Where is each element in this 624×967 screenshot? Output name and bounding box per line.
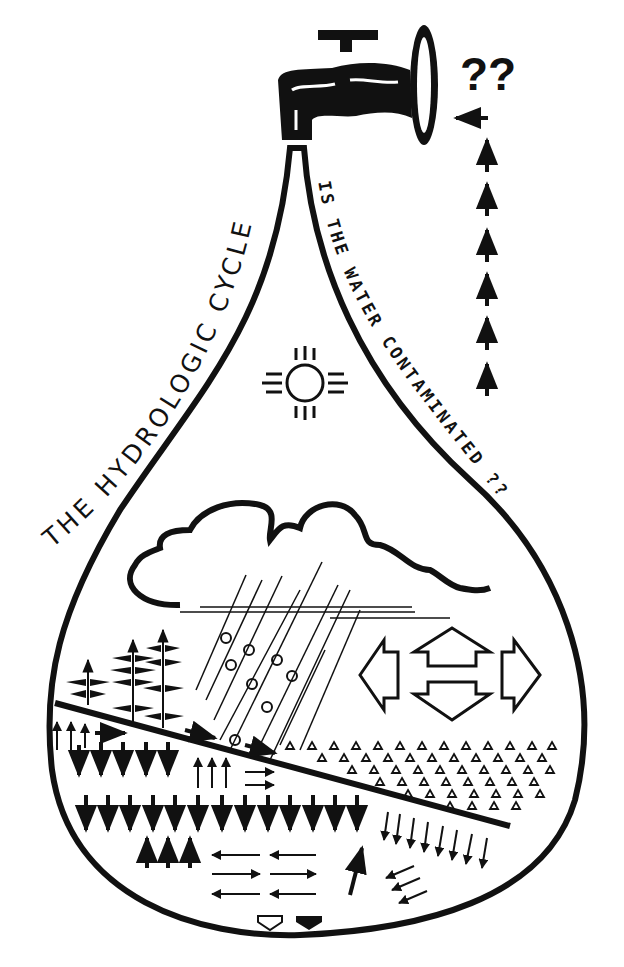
faucet-icon [278,25,438,145]
horizontal-arrow-icon [212,855,316,894]
down-arrow-icon [79,742,362,895]
cloud-icon [130,503,490,605]
question-marks: ?? [460,48,516,100]
bottom-discharge-arrows [258,916,322,930]
rain-lines-icon [180,562,450,760]
slanted-infiltration-arrows [384,812,487,903]
dashed-up-arrow-icon [456,118,488,396]
zia-sun-icon [262,346,348,420]
four-way-hollow-arrows-icon [360,628,540,720]
hydrologic-cycle-diagram: ?? THE HYDROLOGIC CYCLE IS THE WATER CON… [0,0,624,967]
contamination-question: IS THE WATER CONTAMINATED ?? [314,179,513,502]
